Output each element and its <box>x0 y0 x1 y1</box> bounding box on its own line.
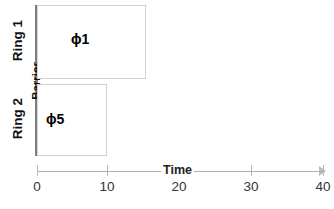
task-bar-phi1 <box>37 5 146 79</box>
gantt-chart-figure: Ring 1 Ring 2 Barrier ϕ1 ϕ5 0 10 20 30 4… <box>0 0 334 209</box>
axis-tick-label-10: 10 <box>99 179 114 194</box>
task-label-phi1: ϕ1 <box>71 31 89 47</box>
axis-tick-10 <box>107 165 108 176</box>
ring-1-axis-label: Ring 1 <box>10 11 25 71</box>
ring-2-axis-label: Ring 2 <box>10 89 25 149</box>
axis-tick-40 <box>323 165 324 176</box>
axis-tick-label-40: 40 <box>315 179 330 194</box>
axis-tick-label-0: 0 <box>33 179 41 194</box>
axis-tick-0 <box>37 165 38 176</box>
axis-tick-30 <box>251 165 252 176</box>
time-axis-title: Time <box>161 163 194 177</box>
task-label-phi5: ϕ5 <box>46 111 64 127</box>
axis-tick-label-30: 30 <box>243 179 258 194</box>
axis-tick-label-20: 20 <box>171 179 186 194</box>
